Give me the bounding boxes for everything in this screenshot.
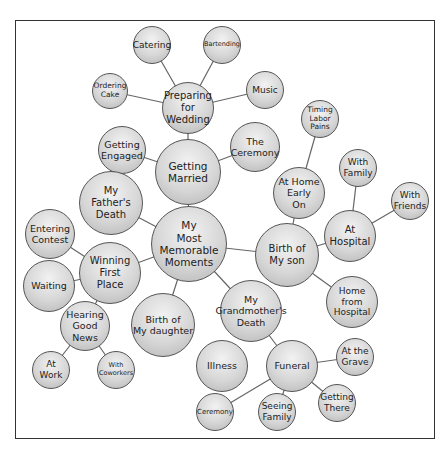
node-hospital: At Hospital xyxy=(324,210,376,262)
node-catering: Catering xyxy=(133,26,171,64)
node-label: With Friends xyxy=(394,190,426,211)
node-ceremony1: The Ceremony xyxy=(230,122,280,172)
node-grandma: My Grandmother's Death xyxy=(220,280,282,342)
node-label: Getting There xyxy=(320,392,354,413)
node-father: My Father's Death xyxy=(79,171,143,235)
node-label: At the Grave xyxy=(341,346,368,367)
node-label: Funeral xyxy=(274,360,309,371)
node-friends: With Friends xyxy=(391,182,429,220)
node-grave: At the Grave xyxy=(336,338,374,376)
node-illness: Illness xyxy=(196,340,248,392)
node-label: Waiting xyxy=(31,280,67,291)
node-labor: Timing Labor Pains xyxy=(301,100,339,138)
node-family: With Family xyxy=(339,149,377,187)
node-contest: Entering Contest xyxy=(25,209,75,259)
node-music: Music xyxy=(246,71,284,109)
node-label: Hearing Good News xyxy=(66,309,103,343)
node-bartending: Bartending xyxy=(203,26,241,64)
node-label: Timing Labor Pains xyxy=(307,106,332,133)
node-label: Birth of My son xyxy=(269,243,306,267)
node-homefrom: Home from Hospital xyxy=(326,276,378,328)
node-work: At Work xyxy=(32,351,70,389)
node-hearing: Hearing Good News xyxy=(60,301,110,351)
node-label: With Coworkers xyxy=(99,362,133,377)
node-label: Catering xyxy=(133,40,171,51)
node-son: Birth of My son xyxy=(255,223,319,287)
node-waiting: Waiting xyxy=(23,260,75,312)
node-married: Getting Married xyxy=(155,139,221,205)
node-label: At Hospital xyxy=(330,224,371,248)
node-label: Illness xyxy=(207,360,237,371)
node-label: Getting Engaged xyxy=(101,139,143,161)
node-coworkers: With Coworkers xyxy=(97,351,135,389)
node-funeral: Funeral xyxy=(266,340,318,392)
node-label: Entering Contest xyxy=(30,223,70,245)
node-label: Birth of My daughter xyxy=(133,314,193,336)
node-homeearly: At Home Early On xyxy=(273,167,325,219)
node-label: At Work xyxy=(40,359,63,380)
node-label: Winning First Place xyxy=(90,255,131,290)
node-preparing: Preparing for Wedding xyxy=(162,82,214,134)
node-label: My Most Memorable Moments xyxy=(160,219,219,269)
node-label: Preparing for Wedding xyxy=(164,90,212,125)
node-there: Getting There xyxy=(318,384,356,422)
node-label: Music xyxy=(252,85,278,96)
node-label: At Home Early On xyxy=(278,176,319,210)
node-label: Getting Married xyxy=(168,160,208,185)
node-winning: Winning First Place xyxy=(79,242,141,304)
node-cake: Ordering Cake xyxy=(92,73,128,109)
node-label: Home from Hospital xyxy=(327,286,377,318)
node-center: My Most Memorable Moments xyxy=(151,206,227,282)
node-label: Bartending xyxy=(204,41,240,49)
node-label: My Father's Death xyxy=(91,185,130,220)
node-engaged: Getting Engaged xyxy=(98,126,146,174)
node-daughter: Birth of My daughter xyxy=(131,293,195,357)
node-label: The Ceremony xyxy=(231,136,280,158)
node-label: With Family xyxy=(344,157,373,178)
node-label: Seeing Family xyxy=(262,401,293,422)
node-label: My Grandmother's Death xyxy=(215,294,286,328)
node-ceremony2: Ceremony xyxy=(196,393,234,431)
node-seeing: Seeing Family xyxy=(258,393,296,431)
node-label: Ceremony xyxy=(197,408,233,416)
node-label: Ordering Cake xyxy=(94,82,127,100)
